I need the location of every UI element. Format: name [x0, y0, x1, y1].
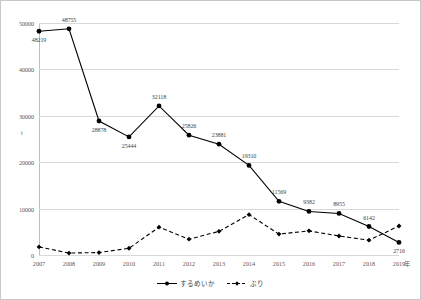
y-tick-label: 20000	[19, 159, 34, 166]
x-tick-label: 2008	[63, 260, 75, 267]
data-point-marker	[247, 163, 252, 168]
data-label: 9382	[303, 199, 315, 205]
x-tick-label: 2014	[243, 260, 255, 267]
data-point-marker	[217, 229, 222, 234]
data-point-marker	[157, 104, 162, 109]
data-label: 32118	[152, 94, 166, 100]
x-tick-label: 2019	[393, 260, 405, 267]
data-label: 28878	[92, 127, 107, 133]
legend-marker-solid-line	[157, 280, 177, 287]
x-tick-label: 2018	[363, 260, 375, 267]
gridline	[39, 255, 399, 256]
x-tick-label: 2010	[123, 260, 135, 267]
data-point-marker	[307, 228, 312, 233]
data-label: 23881	[212, 132, 227, 138]
data-label: 11569	[272, 189, 286, 195]
line-chart: t 年 01000020000300004000050000 200720082…	[0, 0, 421, 300]
data-point-marker	[97, 119, 102, 124]
y-axis-unit-label: t	[21, 129, 23, 136]
data-point-marker	[367, 238, 372, 243]
x-tick-label: 2015	[273, 260, 285, 267]
data-label: 25826	[182, 123, 197, 129]
y-tick-label: 30000	[19, 112, 34, 119]
data-label: 25444	[122, 143, 137, 149]
x-tick-label: 2007	[33, 260, 45, 267]
data-point-marker	[67, 26, 72, 31]
y-tick-label: 0	[31, 252, 34, 259]
x-tick-label: 2011	[153, 260, 165, 267]
data-point-marker	[307, 209, 312, 214]
series-lines	[39, 23, 399, 255]
data-point-marker	[277, 199, 282, 204]
y-tick-label: 10000	[19, 205, 34, 212]
data-point-marker	[337, 211, 342, 216]
data-point-marker	[127, 135, 132, 140]
data-point-marker	[187, 133, 192, 138]
x-tick-label: 2017	[333, 260, 345, 267]
y-tick-label: 50000	[19, 20, 34, 27]
data-point-marker	[367, 224, 372, 229]
legend-label-1: ぶり	[250, 278, 264, 288]
series-line-1	[39, 215, 399, 253]
x-tick-label: 2013	[213, 260, 225, 267]
plot-area: 01000020000300004000050000 2007200820092…	[39, 23, 399, 255]
y-tick-label: 40000	[19, 66, 34, 73]
data-point-marker	[67, 251, 72, 256]
data-point-marker	[37, 29, 42, 34]
legend-item-1[interactable]: ぶり	[227, 278, 264, 288]
data-label: 48755	[62, 17, 77, 23]
data-point-marker	[217, 142, 222, 147]
data-point-marker	[397, 240, 402, 245]
data-label: 48219	[32, 37, 47, 43]
chart-legend: するめいか ぶり	[1, 278, 420, 288]
data-point-marker	[337, 234, 342, 239]
data-label: 2716	[393, 248, 405, 254]
data-point-marker	[97, 250, 102, 255]
data-point-marker	[37, 244, 42, 249]
data-point-marker	[397, 224, 402, 229]
data-point-marker	[187, 237, 192, 242]
data-label: 6142	[363, 215, 375, 221]
legend-marker-dashed-line	[227, 280, 247, 287]
data-label: 19310	[242, 153, 257, 159]
data-label: 8955	[333, 201, 345, 207]
data-point-marker	[157, 225, 162, 230]
legend-item-0[interactable]: するめいか	[157, 278, 215, 288]
x-tick-label: 2009	[93, 260, 105, 267]
legend-label-0: するめいか	[180, 278, 215, 288]
x-tick-label: 2016	[303, 260, 315, 267]
x-tick-label: 2012	[183, 260, 195, 267]
